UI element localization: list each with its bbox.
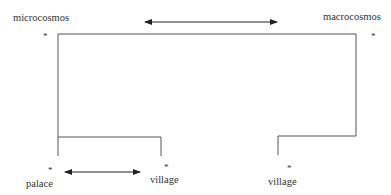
label-village-right: village — [268, 176, 297, 188]
star-marker: * — [371, 32, 376, 41]
star-marker: * — [43, 32, 48, 41]
outer-bracket — [58, 34, 356, 156]
label-palace: palace — [26, 178, 53, 190]
diagram-lines — [0, 0, 391, 195]
star-marker: * — [164, 163, 169, 172]
label-microcosmos: microcosmos — [13, 12, 69, 24]
inner-left-bracket — [58, 137, 161, 156]
star-marker: * — [287, 164, 292, 173]
label-macrocosmos: macrocosmos — [323, 11, 381, 23]
label-village-middle: village — [150, 174, 179, 186]
star-marker: * — [48, 166, 53, 175]
